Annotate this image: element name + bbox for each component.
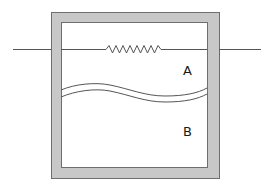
diagram-canvas: A B [0, 0, 276, 188]
label-chamber-a: A [183, 63, 192, 78]
label-chamber-b: B [183, 124, 192, 139]
